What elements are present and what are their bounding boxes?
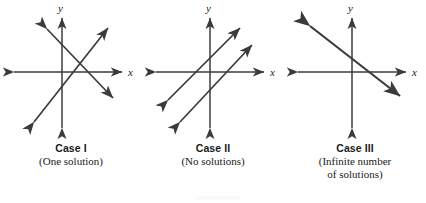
plot-area-case-3: y x (284, 0, 426, 140)
caption-case-1: Case I (One solution) (0, 142, 142, 168)
y-axis-label-case-3: y (347, 2, 353, 14)
case-subtitle-2-line-1: (No solutions) (142, 155, 284, 168)
case-subtitle-3-line-2: of solutions) (284, 168, 426, 181)
case-subtitle-2: (No solutions) (142, 155, 284, 168)
case-subtitle-3-line-1: (Infinite number (284, 155, 426, 168)
x-axis-label-case-3: x (411, 66, 417, 78)
line-2-case-1 (47, 29, 113, 98)
plot-area-case-1: y x (0, 0, 142, 140)
case-subtitle-3: (Infinite number of solutions) (284, 155, 426, 181)
line-coincident-case-3 (310, 26, 400, 96)
case-title-1: Case I (0, 142, 142, 155)
caption-case-3: Case III (Infinite number of solutions) (284, 142, 426, 181)
case-subtitle-1: (One solution) (0, 155, 142, 168)
case-subtitle-1-line-1: (One solution) (0, 155, 142, 168)
case-title-3: Case III (284, 142, 426, 155)
line-1-case-1 (34, 28, 108, 122)
case-panel-3: y x Case III (Infinite number of solutio… (284, 0, 426, 203)
figure-root: y x Case I (One solution) (0, 0, 426, 203)
y-axis-label-case-1: y (57, 2, 63, 14)
case-panel-1: y x Case I (One solution) (0, 0, 142, 203)
plot-area-case-2: y x (142, 0, 284, 140)
line-1-case-2 (168, 28, 240, 100)
case-panel-2: y x Case II (No solutions) (142, 0, 284, 203)
caption-case-2: Case II (No solutions) (142, 142, 284, 168)
page-artifact (196, 196, 240, 200)
case-title-2: Case II (142, 142, 284, 155)
y-axis-label-case-2: y (205, 2, 211, 14)
x-axis-label-case-2: x (269, 66, 275, 78)
line-2-case-2 (180, 45, 252, 122)
x-axis-label-case-1: x (127, 66, 133, 78)
